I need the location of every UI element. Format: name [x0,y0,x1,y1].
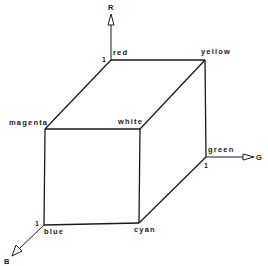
g-axis-tick: 1 [204,162,208,169]
g-axis [206,154,254,160]
vertex-label-blue: blue [44,227,64,236]
vertex-label-green: green [208,145,234,154]
b-axis-label: B [4,257,10,266]
g-axis-label: G [256,153,262,162]
r-axis-label: R [108,3,114,12]
vertex-label-white: white [117,117,143,126]
b-axis [12,225,44,256]
vertex-label-yellow: yellow [201,47,231,56]
vertex-label-red: red [113,48,128,57]
vertex-label-magenta: magenta [9,118,48,127]
vertex-label-cyan: cyan [134,225,156,234]
r-axis-tick: 1 [102,56,106,63]
b-axis-arrow-icon [12,245,22,256]
r-axis-arrow-icon [108,14,114,25]
rgb-cube-diagram: R G B 1 1 1 red yellow magenta white gre… [0,0,268,266]
b-axis-tick: 1 [35,220,39,227]
cube [44,60,206,225]
g-axis-arrow-icon [243,154,254,160]
